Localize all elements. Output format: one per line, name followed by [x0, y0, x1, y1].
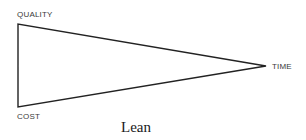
lean-triangle-diagram: QUALITY COST TIME Lean: [0, 0, 306, 140]
triangle-shape: [0, 0, 306, 140]
time-label: TIME: [272, 62, 292, 71]
cost-label: COST: [17, 112, 40, 121]
quality-label: QUALITY: [17, 10, 53, 19]
diagram-caption: Lean: [121, 119, 151, 136]
